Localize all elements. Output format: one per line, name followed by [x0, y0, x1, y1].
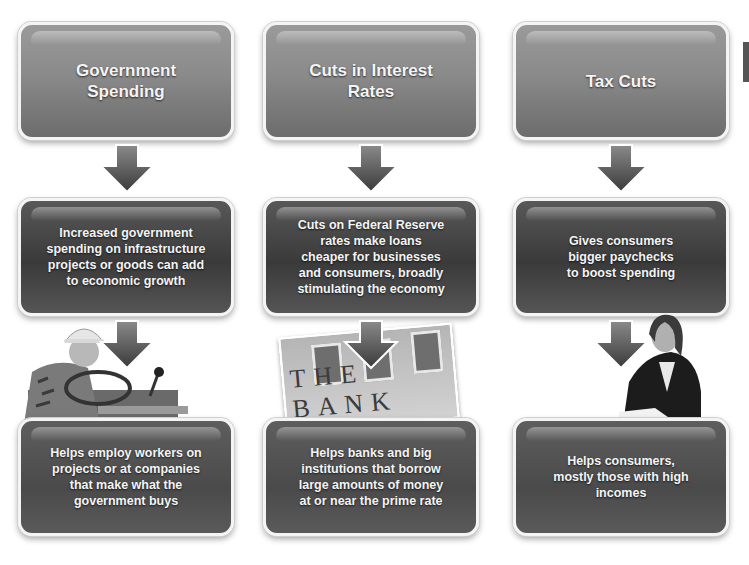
down-arrow-icon: [593, 144, 649, 194]
box-title: Cuts in Interest Rates: [309, 60, 433, 102]
tax-cuts-box: Tax Cuts: [513, 22, 729, 140]
box-title: Tax Cuts: [586, 71, 657, 92]
box-text: Gives consumers bigger paychecks to boos…: [567, 233, 675, 281]
down-arrow-icon: [343, 320, 399, 370]
government-spending-effect-box: Increased government spending on infrast…: [18, 198, 234, 316]
box-text: Helps banks and big institutions that bo…: [299, 445, 443, 509]
box-text: Helps consumers, mostly those with high …: [553, 453, 688, 501]
down-arrow-icon: [99, 320, 155, 370]
tax-cuts-effect-box: Gives consumers bigger paychecks to boos…: [513, 198, 729, 316]
down-arrow-icon: [343, 144, 399, 194]
box-text: Increased government spending on infrast…: [46, 225, 205, 289]
box-text: Helps employ workers on projects or at c…: [50, 445, 201, 509]
cuts-in-interest-rates-box: Cuts in Interest Rates: [263, 22, 479, 140]
woman-paperwork-photo: [615, 312, 705, 424]
box-text: Cuts on Federal Reserve rates make loans…: [297, 217, 444, 297]
government-spending-beneficiaries-box: Helps employ workers on projects or at c…: [18, 418, 234, 536]
government-spending-box: Government Spending: [18, 22, 234, 140]
side-edge-tab: [743, 42, 749, 82]
interest-rates-beneficiaries-box: Helps banks and big institutions that bo…: [263, 418, 479, 536]
down-arrow-icon: [99, 144, 155, 194]
tax-cuts-beneficiaries-box: Helps consumers, mostly those with high …: [513, 418, 729, 536]
interest-rates-effect-box: Cuts on Federal Reserve rates make loans…: [263, 198, 479, 316]
box-title: Government Spending: [76, 60, 176, 102]
